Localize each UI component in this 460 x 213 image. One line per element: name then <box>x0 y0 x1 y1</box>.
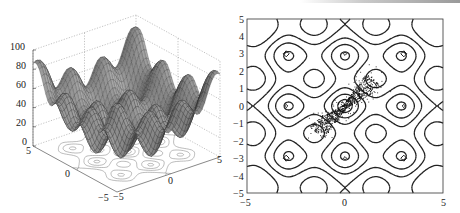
contour-plot <box>0 0 460 213</box>
